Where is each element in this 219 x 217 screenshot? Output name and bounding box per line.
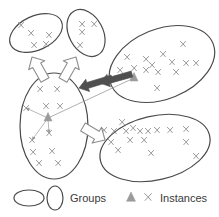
instance-x-icon <box>79 21 84 26</box>
instance-x-icon <box>54 86 59 91</box>
instance-x-icon <box>57 103 62 108</box>
instance-x-icon <box>124 54 129 59</box>
instance-x-icon <box>91 21 96 26</box>
instance-x-icon <box>160 51 165 56</box>
arrow-to-top-right-group <box>55 52 84 84</box>
instance-x-icon <box>28 30 33 35</box>
instance-x-icon <box>180 41 185 46</box>
group-ellipse[interactable] <box>59 3 112 63</box>
instance-x-icon <box>115 147 120 152</box>
group-bottom-right-group[interactable] <box>93 104 217 192</box>
instance-x-icon <box>108 139 113 144</box>
arrow-line <box>32 118 48 140</box>
instance-x-icon <box>18 22 23 27</box>
legend-ellipse-vertical-icon <box>47 186 63 210</box>
instance-x-icon <box>31 42 36 47</box>
instance-x-icon <box>36 160 41 165</box>
instance-x-icon <box>183 60 188 65</box>
legend-triangle-icon <box>127 192 136 201</box>
instance-x-icon <box>183 139 188 144</box>
instance-x-icon <box>137 128 142 133</box>
legend: GroupsInstances <box>14 186 208 210</box>
arrow-outline <box>55 52 84 84</box>
group-top-left-group[interactable] <box>3 6 68 60</box>
instance-x-icon <box>154 127 159 132</box>
instance-x-icon <box>183 126 188 131</box>
legend-instances-label: Instances <box>160 192 208 204</box>
arrow-to-top-left-group <box>24 52 53 84</box>
instance-x-icon <box>143 67 148 72</box>
instance-x-icon <box>29 137 34 142</box>
instance-x-icon <box>127 137 132 142</box>
diagram-canvas: GroupsInstances <box>0 0 219 217</box>
centroid-link-arrow <box>26 108 48 118</box>
instance-x-icon <box>173 69 178 74</box>
instance-x-icon <box>123 128 128 133</box>
instance-x-icon <box>119 119 124 124</box>
group-top-right-group[interactable] <box>59 3 112 63</box>
legend-x-icon <box>145 194 152 201</box>
group-right-large-group[interactable] <box>98 11 219 117</box>
instance-x-icon <box>37 86 42 91</box>
arrow-outline <box>78 119 109 148</box>
instance-x-icon <box>145 128 150 133</box>
instance-x-icon <box>55 160 60 165</box>
instance-x-icon <box>43 41 48 46</box>
instance-x-icon <box>149 62 154 67</box>
instance-x-icon <box>79 29 84 34</box>
group-ellipse[interactable] <box>3 6 68 60</box>
instance-x-icon <box>43 103 48 108</box>
group-center-left-group[interactable] <box>20 73 88 179</box>
diagram-figure: GroupsInstances <box>0 0 219 217</box>
instance-x-icon <box>155 69 160 74</box>
instance-x-icon <box>130 125 135 130</box>
arrow-outline <box>24 52 53 84</box>
instance-x-icon <box>131 65 136 70</box>
instance-x-icon <box>49 148 54 153</box>
instance-x-icon <box>148 150 153 155</box>
instance-x-icon <box>141 137 146 142</box>
group-ellipse[interactable] <box>20 73 88 179</box>
instance-x-icon <box>193 153 198 158</box>
instance-x-icon <box>30 149 35 154</box>
group-ellipse[interactable] <box>93 104 217 192</box>
arrow-to-bottom-right-group <box>78 119 109 148</box>
instance-x-icon <box>169 59 174 64</box>
group-ellipse[interactable] <box>98 11 219 117</box>
instance-x-icon <box>117 67 122 72</box>
arrow-line <box>26 108 48 118</box>
instance-x-icon <box>167 127 172 132</box>
legend-ellipse-horizontal-icon <box>14 190 44 206</box>
instance-x-icon <box>143 56 148 61</box>
instance-x-icon <box>46 32 51 37</box>
centroid-link-arrow <box>32 118 48 140</box>
instance-x-icon <box>193 60 198 65</box>
instance-x-icon <box>77 42 82 47</box>
instance-x-icon <box>154 85 159 90</box>
legend-groups-label: Groups <box>70 192 107 204</box>
